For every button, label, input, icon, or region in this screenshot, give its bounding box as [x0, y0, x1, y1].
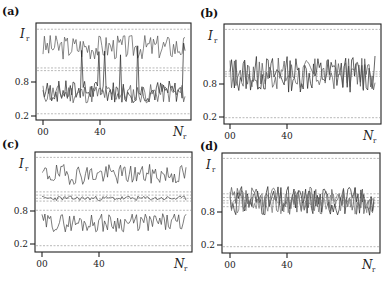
x-axis-subscript: r — [183, 133, 187, 141]
y-axis-subscript: r — [212, 166, 216, 174]
panel-label: (c) — [2, 138, 19, 151]
x-tick-label: 40 — [94, 127, 106, 137]
plot-frame — [35, 152, 192, 252]
series-line-middle — [42, 196, 186, 201]
x-tick-label: 00 — [36, 259, 48, 269]
panel-label: (b) — [200, 7, 218, 20]
panel-a: (a)0.80.20040IrNr — [2, 5, 191, 141]
series-line-lower — [42, 214, 186, 232]
x-axis-subscript: r — [184, 265, 188, 273]
panel-d: (d)0.80.20040IrNr — [200, 140, 380, 274]
y-axis-title: I — [18, 157, 24, 171]
x-tick-label: 00 — [224, 131, 236, 141]
y-tick-label: 0.8 — [15, 77, 30, 87]
x-tick-label: 00 — [224, 260, 236, 270]
y-tick-label: 0.2 — [15, 111, 29, 121]
x-tick-label: 40 — [281, 131, 293, 141]
y-tick-label: 0.2 — [14, 239, 28, 249]
y-axis-title: I — [205, 158, 211, 172]
y-axis-subscript: r — [25, 165, 29, 173]
x-axis-subscript: r — [372, 266, 376, 274]
y-tick-label: 0.8 — [201, 207, 216, 217]
x-tick-label: 00 — [37, 127, 49, 137]
panel-label: (d) — [200, 140, 218, 153]
y-tick-label: 0.8 — [203, 79, 218, 89]
series-line-upper — [43, 36, 185, 60]
panel-b: (b)0.80.20040IrNr — [200, 7, 381, 145]
figure-canvas: (a)0.80.20040IrNr(b)0.80.20040IrNr(c)0.8… — [0, 0, 390, 281]
x-axis-subscript: r — [373, 137, 377, 145]
y-axis-title: I — [19, 27, 25, 41]
x-tick-label: 40 — [93, 259, 105, 269]
y-tick-label: 0.8 — [14, 206, 29, 216]
series-line-upper — [42, 164, 186, 184]
y-axis-subscript: r — [214, 37, 218, 45]
panel-label: (a) — [2, 5, 20, 18]
x-tick-label: 40 — [281, 260, 293, 270]
panel-c: (c)0.80.20040IrNr — [2, 138, 192, 273]
y-axis-title: I — [207, 29, 213, 43]
y-axis-subscript: r — [26, 35, 30, 43]
y-tick-label: 0.2 — [203, 112, 217, 122]
y-tick-label: 0.2 — [201, 240, 215, 250]
